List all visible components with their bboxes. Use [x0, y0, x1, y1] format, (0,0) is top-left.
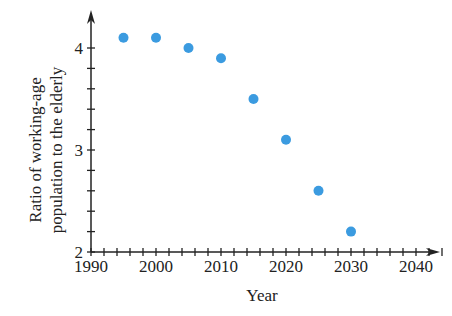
data-points — [119, 33, 357, 237]
x-tick-label: 1990 — [74, 257, 108, 276]
scatter-chart: 234 199020002010202020302040 Year Ratio … — [0, 0, 452, 316]
data-point — [119, 33, 129, 43]
data-point — [314, 186, 324, 196]
y-axis-title: Ratio of working-age population to the e… — [26, 66, 66, 233]
y-axis-title-line-2: population to the elderly — [47, 66, 66, 233]
x-tick-labels: 199020002010202020302040 — [74, 257, 433, 276]
data-point — [249, 94, 259, 104]
data-point — [216, 53, 226, 63]
y-tick-label: 4 — [75, 39, 84, 58]
data-point — [151, 33, 161, 43]
x-tick-label: 2000 — [139, 257, 173, 276]
x-tick-label: 2020 — [269, 257, 303, 276]
x-tick-label: 2010 — [204, 257, 238, 276]
x-tick-label: 2030 — [334, 257, 368, 276]
y-tick-label: 3 — [75, 141, 84, 160]
data-point — [184, 43, 194, 53]
x-tick-label: 2040 — [399, 257, 433, 276]
x-axis-title: Year — [246, 286, 278, 305]
y-axis-title-line-1: Ratio of working-age — [26, 77, 45, 222]
data-point — [281, 135, 291, 145]
data-point — [346, 227, 356, 237]
y-tick-labels: 234 — [75, 39, 84, 262]
